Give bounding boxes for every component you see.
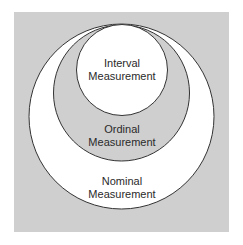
ordinal-label-line1: Ordinal xyxy=(62,123,182,136)
interval-label-line2: Measurement xyxy=(62,70,182,83)
nominal-label-line2: Measurement xyxy=(62,188,182,201)
nominal-label: Nominal Measurement xyxy=(62,175,182,201)
nested-measurement-diagram: Interval Measurement Ordinal Measurement… xyxy=(0,0,243,245)
ordinal-label-line2: Measurement xyxy=(62,136,182,149)
nominal-label-line1: Nominal xyxy=(62,175,182,188)
ordinal-label: Ordinal Measurement xyxy=(62,123,182,149)
interval-label-line1: Interval xyxy=(62,57,182,70)
interval-label: Interval Measurement xyxy=(62,57,182,83)
